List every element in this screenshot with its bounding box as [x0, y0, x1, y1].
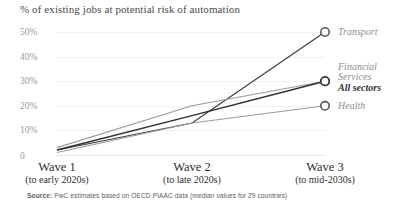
source-label: Source: [27, 192, 52, 199]
series-label-transport: Transport [338, 27, 377, 38]
automation-risk-chart: % of existing jobs at potential risk of … [0, 0, 400, 210]
x-tick-wave-1-label: Wave 1 [7, 160, 107, 174]
series-label-health: Health [338, 101, 365, 112]
x-tick-wave-1-sublabel: (to early 2020s) [7, 174, 107, 186]
series-label-financial-services: Services [338, 72, 371, 83]
series-endpoint-transport [321, 28, 329, 36]
series-endpoint-all-sectors [321, 77, 329, 85]
x-tick-wave-2-sublabel: (to late 2020s) [142, 174, 242, 186]
x-tick-wave-2-label: Wave 2 [142, 160, 242, 174]
x-tick-wave-3: Wave 3 (to mid-2030s) [275, 160, 375, 186]
source-text: PwC estimates based on OECD PIAAC data (… [52, 192, 287, 199]
series-line-all-sectors [57, 81, 325, 150]
x-tick-wave-3-sublabel: (to mid-2030s) [275, 174, 375, 186]
x-tick-wave-1: Wave 1 (to early 2020s) [7, 160, 107, 186]
series-label-all-sectors: All sectors [338, 83, 381, 94]
source-note: Source: PwC estimates based on OECD PIAA… [27, 192, 287, 199]
series-endpoint-health [321, 102, 329, 110]
series-line-health [57, 106, 325, 153]
x-tick-wave-2: Wave 2 (to late 2020s) [142, 160, 242, 186]
x-tick-wave-3-label: Wave 3 [275, 160, 375, 174]
